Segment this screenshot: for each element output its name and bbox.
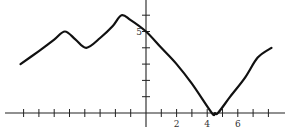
x-tick-label: 4: [204, 119, 210, 129]
function-graph: 2465: [0, 0, 289, 139]
x-tick-label: 2: [174, 119, 180, 129]
axes: [5, 0, 285, 127]
x-tick-label: 6: [235, 119, 241, 129]
